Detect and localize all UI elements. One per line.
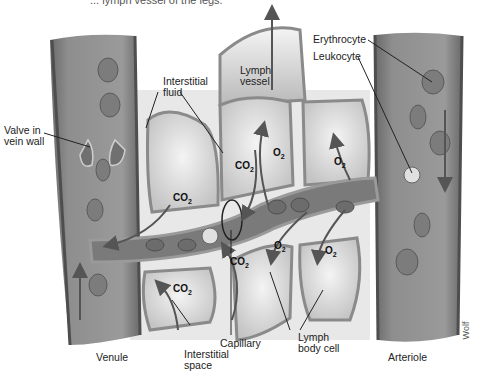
gas-o2-3: O2	[274, 240, 286, 253]
gas-o2-2: O2	[334, 156, 346, 169]
label-lymph-vessel: Lymph vessel	[240, 65, 271, 87]
venule-vessel	[50, 35, 140, 345]
gas-o2-1: O2	[273, 147, 285, 160]
label-venule: Venule	[96, 352, 128, 363]
gas-o2-4: O2	[325, 245, 337, 258]
gas-co2-2: CO2	[235, 160, 254, 173]
label-erythrocyte: Erythrocyte	[313, 34, 366, 45]
gas-co2-4: CO2	[230, 256, 249, 269]
label-interstitial-space: Interstitial space	[184, 349, 229, 371]
label-capillary: Capillary	[220, 338, 261, 349]
label-arteriole: Arteriole	[388, 352, 427, 363]
arteriole-vessel	[375, 33, 462, 342]
artist-signature: Wolf	[461, 322, 472, 340]
gas-co2-3: CO2	[173, 283, 192, 296]
label-lymph-body-cell: Lymph body cell	[298, 332, 339, 354]
label-valve-in-vein-wall: Valve in vein wall	[4, 125, 44, 147]
lymph-capillary-diagram	[0, 0, 488, 385]
gas-co2-1: CO2	[173, 192, 192, 205]
label-interstitial-fluid: Interstitial fluid	[163, 76, 208, 98]
label-leukocyte: Leukocyte	[313, 51, 361, 62]
